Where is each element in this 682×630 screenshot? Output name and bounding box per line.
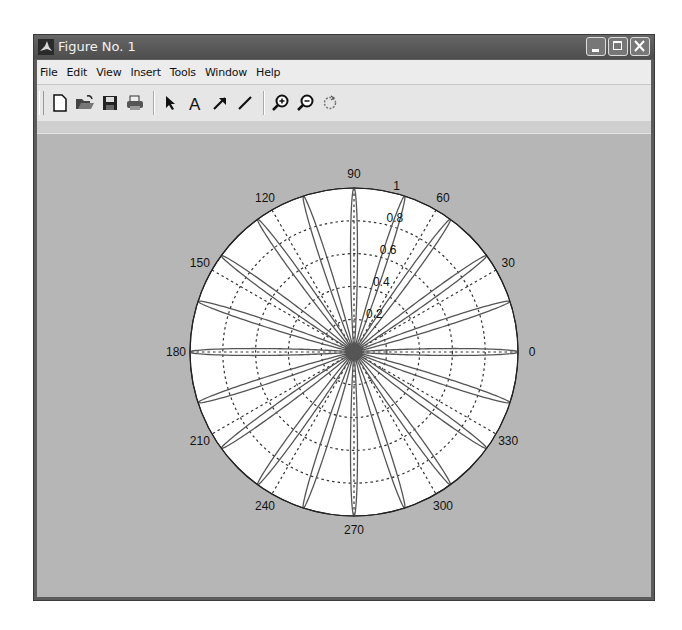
- polar-axes[interactable]: 03060901201501802102402703003300.20.40.6…: [0, 0, 682, 630]
- radial-tick-label: 1: [393, 179, 400, 193]
- angle-tick-label: 60: [436, 191, 450, 205]
- radial-tick-label: 0.8: [387, 211, 404, 225]
- angle-tick-label: 330: [498, 434, 518, 448]
- angle-tick-label: 210: [190, 434, 210, 448]
- angle-tick-label: 120: [255, 191, 275, 205]
- radial-tick-label: 0.2: [366, 307, 383, 321]
- angle-tick-label: 240: [255, 499, 275, 513]
- angle-tick-label: 30: [501, 256, 515, 270]
- radial-tick-label: 0.4: [373, 275, 390, 289]
- angle-tick-label: 90: [347, 167, 361, 181]
- angle-tick-label: 270: [344, 523, 364, 537]
- angle-tick-label: 180: [166, 345, 186, 359]
- angle-tick-label: 0: [529, 345, 536, 359]
- angle-tick-label: 300: [433, 499, 453, 513]
- radial-tick-label: 0.6: [380, 243, 397, 257]
- angle-tick-label: 150: [190, 256, 210, 270]
